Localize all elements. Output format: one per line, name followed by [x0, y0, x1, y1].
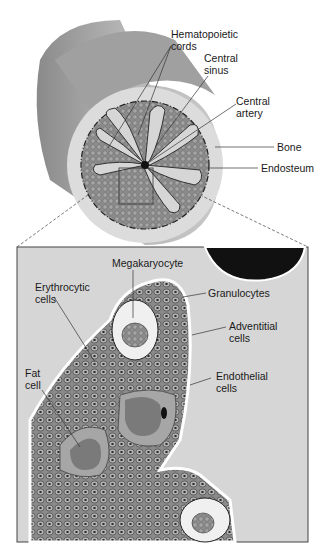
- central-artery: [141, 161, 149, 169]
- label-megakaryocyte: Megakaryocyte: [112, 257, 183, 269]
- label-endothelial-cells: Endothelial cells: [216, 370, 268, 394]
- label-granulocytes: Granulocytes: [208, 287, 270, 299]
- label-erythrocytic-cells: Erythrocytic cells: [35, 281, 90, 305]
- label-adventitial-cells: Adventitial cells: [229, 320, 277, 344]
- label-endosteum: Endosteum: [261, 162, 314, 174]
- bone-marrow-diagram: [0, 0, 324, 551]
- label-bone: Bone: [277, 141, 302, 153]
- label-central-artery: Central artery: [236, 95, 270, 119]
- label-central-sinus: Central sinus: [204, 52, 238, 76]
- label-hematopoietic-cords: Hematopoietic cords: [171, 28, 238, 52]
- label-fat-cell: Fat cell: [25, 367, 41, 391]
